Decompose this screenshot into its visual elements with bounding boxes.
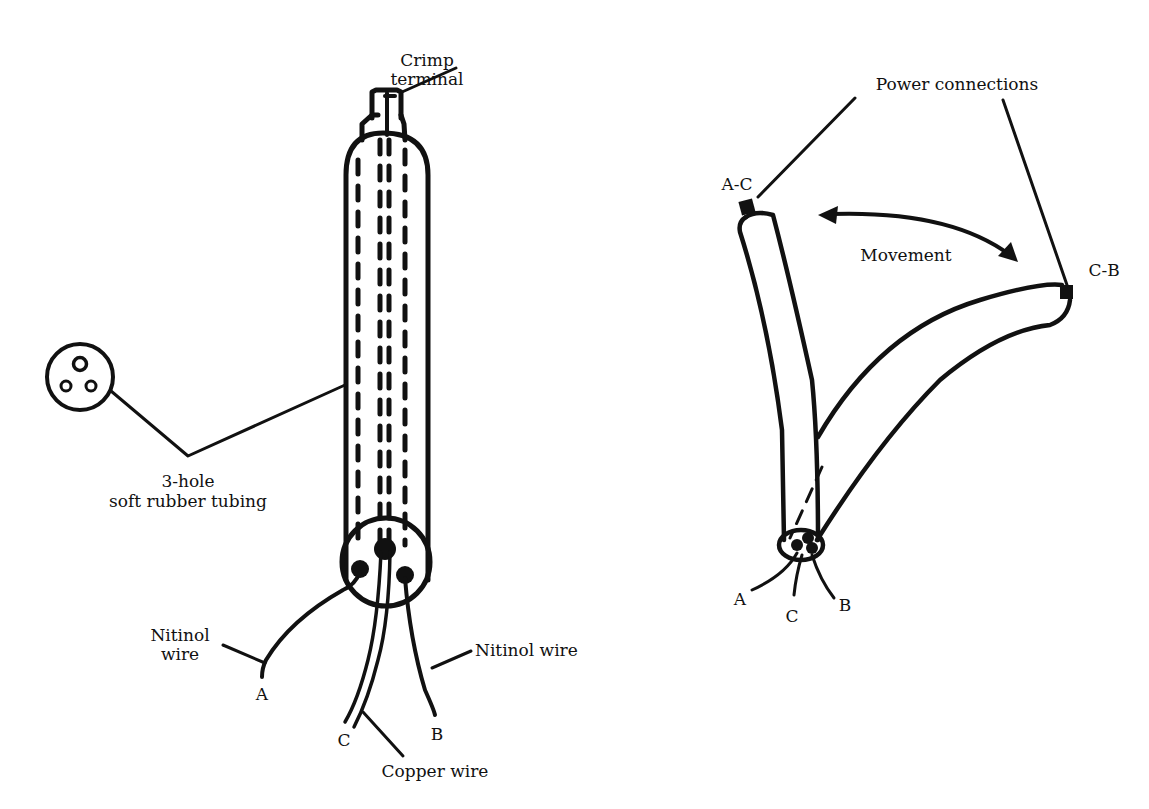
nitinol-actuator-diagram: Crimp terminal 3-hole soft rubber tubing… bbox=[0, 0, 1149, 809]
nitinol-left-leader bbox=[223, 645, 265, 663]
nitinol-wire-a bbox=[262, 572, 360, 677]
label-wire-b: B bbox=[431, 724, 444, 744]
right-actuator-bending: Power connections A-C C-B Movement A C B bbox=[720, 74, 1119, 626]
label-nitinol-left-2: wire bbox=[161, 644, 199, 664]
label-ac: A-C bbox=[720, 174, 752, 194]
label-crimp: Crimp bbox=[400, 50, 454, 70]
bent-tube-right bbox=[818, 285, 1062, 437]
copper-wire-leader bbox=[363, 712, 403, 756]
bent-tube-left bbox=[740, 217, 784, 540]
label-soft-rubber-tubing: soft rubber tubing bbox=[109, 491, 267, 511]
label-wire-a: A bbox=[255, 684, 269, 704]
hole-c-dot bbox=[374, 538, 396, 560]
label-cb: C-B bbox=[1088, 260, 1119, 280]
label-nitinol-left-1: Nitinol bbox=[150, 625, 209, 645]
label-right-a: A bbox=[733, 589, 747, 609]
label-wire-c: C bbox=[337, 730, 350, 750]
label-3-hole: 3-hole bbox=[161, 471, 214, 491]
label-movement: Movement bbox=[860, 245, 951, 265]
copper-wire-c-outer bbox=[345, 552, 381, 722]
right-wire-b bbox=[812, 555, 834, 598]
label-terminal: terminal bbox=[390, 69, 463, 89]
left-actuator-assembly: Crimp terminal 3-hole soft rubber tubing… bbox=[47, 50, 578, 781]
tubing-leader bbox=[111, 385, 345, 456]
label-right-b: B bbox=[839, 595, 852, 615]
nitinol-right-leader bbox=[432, 651, 471, 668]
tubing-cross-section bbox=[47, 344, 113, 410]
label-right-c: C bbox=[785, 606, 798, 626]
label-power-connections: Power connections bbox=[876, 74, 1039, 94]
label-nitinol-right: Nitinol wire bbox=[475, 640, 578, 660]
power-leader-ac bbox=[758, 98, 855, 197]
connector-cb bbox=[1060, 285, 1073, 299]
label-copper-wire: Copper wire bbox=[382, 761, 489, 781]
